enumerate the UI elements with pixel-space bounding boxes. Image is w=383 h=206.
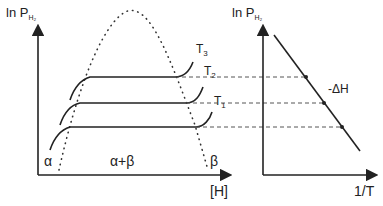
- connector-lines: [175, 77, 342, 127]
- data-point-t3: [304, 75, 308, 79]
- isotherm-t2-label: T2: [204, 64, 216, 80]
- left-y-axis-label: ln PH₂: [6, 5, 36, 21]
- data-point-t2: [322, 101, 326, 105]
- slope-label: -ΔH: [328, 82, 349, 96]
- right-y-axis-label: ln PH₂: [232, 5, 262, 21]
- isotherm-t3: [70, 62, 193, 100]
- left-plot: ln PH₂ T3 T2 T1 α α+β β [H]: [6, 5, 228, 199]
- isotherm-t1-label: T1: [214, 94, 226, 110]
- phase-beta-label: β: [210, 153, 218, 169]
- hydride-pct-diagram: ln PH₂ T3 T2 T1 α α+β β [H] ln PH₂ -ΔH 1…: [0, 0, 383, 206]
- left-x-axis-label: [H]: [210, 183, 228, 199]
- right-plot: ln PH₂ -ΔH 1/T: [232, 5, 375, 199]
- isotherm-t2: [60, 87, 203, 125]
- isotherm-t1: [50, 112, 212, 150]
- right-x-axis-label: 1/T: [354, 183, 375, 199]
- isotherm-t3-label: T3: [196, 42, 208, 58]
- phase-alpha-label: α: [44, 153, 52, 169]
- miscibility-gap-dome: [59, 10, 208, 170]
- data-point-t1: [340, 125, 344, 129]
- phase-alpha-beta-label: α+β: [110, 153, 134, 169]
